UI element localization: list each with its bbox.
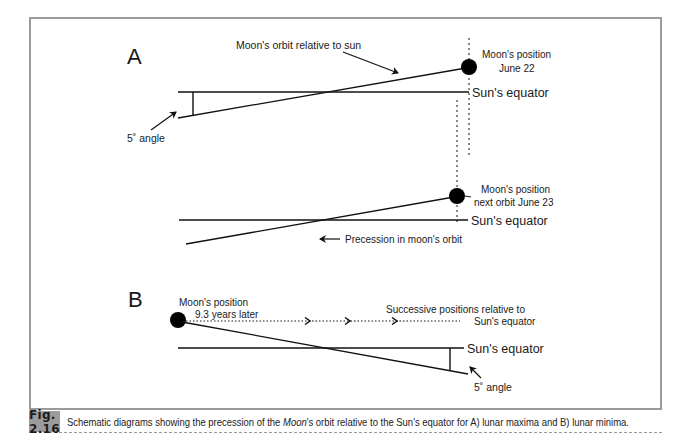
equator-label-b: Sun's equator xyxy=(467,342,544,356)
panel-a-label: A xyxy=(127,44,142,69)
angle-label-a: 5˚ angle xyxy=(127,132,165,144)
figure-number-badge: Fig. 2.16 xyxy=(29,411,60,432)
caption-text-part-1: Schematic diagrams showing the precessio… xyxy=(67,416,283,428)
precession-label: Precession in moon's orbit xyxy=(345,234,462,245)
moon-label-2-line1: Moon's position xyxy=(481,184,550,195)
caption-text: Schematic diagrams showing the precessio… xyxy=(60,416,629,428)
figure-frame xyxy=(30,18,661,409)
moon-label-1-line2: June 22 xyxy=(499,63,535,74)
panel-b-label: B xyxy=(128,287,143,312)
caption-text-italic: Moon xyxy=(283,416,307,428)
angle-label-b: 5˚ angle xyxy=(474,381,512,393)
moon-icon-9-3-years xyxy=(170,312,186,328)
equator-label-2: Sun's equator xyxy=(471,214,548,228)
moon-icon-june-22 xyxy=(461,59,477,75)
figure-diagram: A Moon's orbit relative to sun Sun's equ… xyxy=(0,0,698,443)
successive-label-line2: Sun's equator xyxy=(474,316,536,327)
moon-label-2-line2: next orbit June 23 xyxy=(474,197,554,208)
moon-label-b-line2: 9.3 years later xyxy=(195,309,259,320)
equator-label-1: Sun's equator xyxy=(472,86,549,100)
figure-caption: Fig. 2.16 Schematic diagrams showing the… xyxy=(29,411,662,433)
successive-label-line1: Successive positions relative to xyxy=(386,304,525,315)
moon-icon-june-23 xyxy=(449,188,465,204)
moon-label-b-line1: Moon's position xyxy=(179,297,248,308)
orbit-annotation: Moon's orbit relative to sun xyxy=(236,39,361,51)
caption-text-part-2: 's orbit relative to the Sun's equator f… xyxy=(306,416,628,428)
moon-label-1-line1: Moon's position xyxy=(482,49,551,60)
